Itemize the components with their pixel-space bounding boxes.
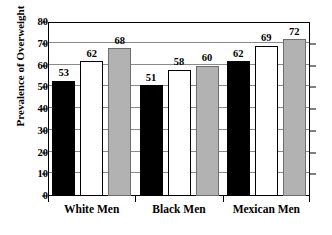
bar-value-label: 53 xyxy=(58,68,69,79)
bar xyxy=(168,70,191,196)
right-axis-tick-mark xyxy=(310,109,316,110)
bar-value-label: 62 xyxy=(86,49,97,60)
y-axis-tick-mark xyxy=(42,130,47,131)
bars-layer: 536268515860626972 xyxy=(48,22,310,196)
bar xyxy=(108,48,131,196)
bar-value-label: 62 xyxy=(233,49,244,60)
y-axis-tick-mark xyxy=(42,22,47,23)
bar xyxy=(227,61,250,196)
x-axis-tick-mark xyxy=(309,196,310,202)
y-axis-tick-mark xyxy=(42,65,47,66)
x-axis-tick-mark xyxy=(223,196,224,202)
x-axis-label-group: White MenBlack MenMexican Men xyxy=(48,203,310,225)
bar-value-label: 68 xyxy=(114,36,125,47)
bar-value-label: 58 xyxy=(174,57,185,68)
x-axis-category-label: Mexican Men xyxy=(233,203,300,215)
bar-value-label: 60 xyxy=(202,53,213,64)
y-axis-tick-mark xyxy=(42,152,47,153)
right-axis-tick-group xyxy=(310,22,318,196)
bar xyxy=(255,46,278,196)
bar-value-label: 51 xyxy=(146,73,157,84)
bar-value-label: 69 xyxy=(261,33,272,44)
bar-chart: Prevalence of Overweight 010203040506070… xyxy=(0,0,332,235)
y-axis-tick-mark xyxy=(42,109,47,110)
bar xyxy=(283,39,306,196)
right-axis-tick-mark xyxy=(310,43,316,44)
x-axis-tick-group xyxy=(48,196,310,203)
x-axis-category-label: White Men xyxy=(64,203,119,215)
right-axis-tick-mark xyxy=(310,174,316,175)
y-axis-tick-mark xyxy=(42,196,47,197)
bar xyxy=(80,61,103,196)
right-axis-tick-mark xyxy=(310,65,316,66)
y-axis-tick-mark xyxy=(42,174,47,175)
x-axis-tick-mark xyxy=(135,196,136,202)
bar xyxy=(52,81,75,196)
right-axis-tick-mark xyxy=(310,87,316,88)
y-axis-tick-group: 01020304050607080 xyxy=(0,22,48,196)
right-axis-tick-mark xyxy=(310,130,316,131)
right-axis-tick-mark xyxy=(310,152,316,153)
x-axis-tick-mark xyxy=(48,196,49,202)
bar xyxy=(140,85,163,196)
x-axis-category-label: Black Men xyxy=(152,203,205,215)
y-axis-tick-mark xyxy=(42,43,47,44)
y-axis-tick-mark xyxy=(42,87,47,88)
bar-value-label: 72 xyxy=(289,27,300,38)
bar xyxy=(196,66,219,197)
